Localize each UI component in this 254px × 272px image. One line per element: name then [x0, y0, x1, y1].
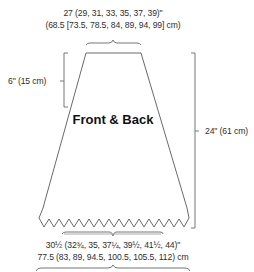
top-width-brace — [86, 40, 141, 45]
piece-label: Front & Back — [73, 112, 154, 127]
upper-depth-bracket — [60, 53, 68, 107]
bottom-brace — [36, 265, 190, 271]
schematic-diagram: 27 (29, 31, 33, 35, 37, 39)" (68.5 [73.5… — [0, 0, 254, 272]
bottom-width-cm: 77.5 (83, 89, 94.5, 100.5, 105.5, 112) c… — [37, 252, 188, 263]
piece-outline — [39, 53, 189, 227]
upper-depth-label: 6" (15 cm) — [8, 76, 46, 87]
total-length-label: 24" (61 cm) — [205, 126, 248, 137]
total-length-bracket — [191, 53, 199, 228]
top-width-cm: (68.5 [73.5, 78.5, 84, 89, 94, 99] cm) — [45, 20, 180, 31]
hem-width-brace — [62, 232, 163, 236]
bottom-width-inches: 30½ (32¾, 35, 37¼, 39½, 41½, 44)" — [46, 240, 181, 251]
top-width-inches: 27 (29, 31, 33, 35, 37, 39)" — [63, 8, 162, 19]
